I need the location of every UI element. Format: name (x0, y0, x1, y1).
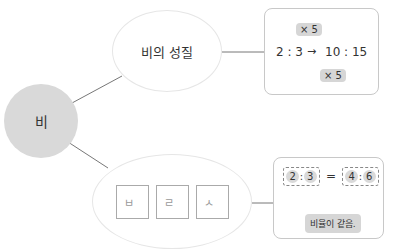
ratio-10-15: 10 : 15 (325, 45, 367, 59)
keyword-cell-2: ㄹ (156, 185, 189, 219)
equals-sign: = (326, 169, 336, 183)
top-multiplier: × 5 (296, 23, 322, 36)
keyword-cell-3: ㅅ (196, 185, 229, 219)
same-ratio-caption: 비율이 같음. (305, 214, 361, 233)
root-node: 비 (4, 84, 78, 158)
keyword-node: ㅂ ㄹ ㅅ (92, 154, 252, 249)
property-label: 비의 성질 (141, 42, 193, 61)
ratio-2-3: 2 : 3 (276, 45, 303, 59)
arrow-icon: → (307, 45, 316, 58)
ratio-right-group: 4 : 6 (342, 167, 379, 186)
property-node: 비의 성질 (112, 10, 222, 92)
ratio-left-group: 2 : 3 (283, 167, 320, 186)
bottom-multiplier: × 5 (320, 69, 346, 82)
root-label: 비 (35, 111, 48, 131)
keyword-cell-1: ㅂ (116, 185, 149, 219)
